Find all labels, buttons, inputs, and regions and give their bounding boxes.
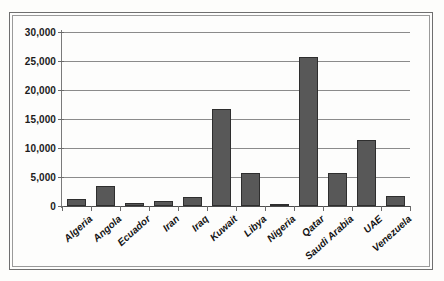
x-category-label: Iraq: [189, 213, 210, 233]
y-tick-mark: [58, 177, 64, 178]
x-category-label: Kuwait: [207, 213, 239, 243]
x-tick-mark: [120, 206, 121, 211]
x-category-label: UAE: [361, 213, 384, 235]
x-category-label: Iran: [160, 213, 181, 233]
y-tick-mark: [58, 32, 64, 33]
y-tick-mark: [58, 148, 64, 149]
x-tick-mark: [352, 206, 353, 211]
chart-figure: 05,00010,00015,00020,00025,00030,000 Alg…: [0, 0, 444, 281]
x-tick-mark: [294, 206, 295, 211]
x-category-label: Nigeria: [264, 213, 297, 244]
x-tick-mark: [381, 206, 382, 211]
x-tick-mark: [236, 206, 237, 211]
y-tick-mark: [58, 206, 64, 207]
x-tick-mark: [178, 206, 179, 211]
x-tick-mark: [149, 206, 150, 211]
x-tick-mark: [410, 206, 411, 211]
y-tick-mark: [58, 61, 64, 62]
x-tick-mark: [265, 206, 266, 211]
x-category-label: Algeria: [61, 213, 94, 244]
x-tick-mark: [91, 206, 92, 211]
y-tick-mark: [58, 119, 64, 120]
y-tick-mark: [58, 90, 64, 91]
x-axis-category-labels: AlgeriaAngolaEcuadorIranIraqKuwaitLibyaN…: [0, 0, 444, 281]
x-tick-mark: [207, 206, 208, 211]
x-tick-mark: [323, 206, 324, 211]
